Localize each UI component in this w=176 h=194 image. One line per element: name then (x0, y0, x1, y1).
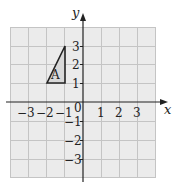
x-tick-3: 3 (133, 106, 141, 120)
x-tick-1: 1 (97, 106, 105, 120)
y-axis-arrow-icon (80, 13, 86, 21)
x-axis-label: x (164, 102, 172, 117)
shape-label: A (50, 68, 60, 82)
coordinate-grid: A y x 3 2 1 −1 −2 −3 −3 −2 −1 1 2 3 0 (0, 0, 176, 194)
y-tick-1: 1 (72, 77, 80, 91)
origin-label: 0 (74, 101, 82, 115)
y-tick-3: 3 (72, 40, 80, 54)
y-tick-neg3: −3 (64, 153, 82, 167)
y-tick-neg2: −2 (64, 134, 82, 148)
x-tick-neg2: −2 (36, 106, 54, 120)
x-tick-2: 2 (115, 106, 123, 120)
x-tick-neg3: −3 (17, 106, 35, 120)
x-tick-neg1: −1 (55, 106, 73, 120)
y-axis-label: y (71, 5, 80, 20)
y-tick-2: 2 (72, 58, 80, 72)
